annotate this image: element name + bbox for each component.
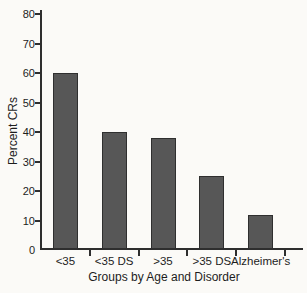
x-tick-5: [284, 250, 286, 256]
y-tick-20: [35, 190, 41, 192]
x-axis-line: [40, 248, 303, 250]
y-axis-title: Percent CRs: [6, 97, 20, 165]
x-category-label-3: >35: [153, 255, 173, 268]
y-tick-label-0: 0: [8, 244, 35, 256]
y-tick-70: [35, 43, 41, 45]
y-tick-50: [35, 102, 41, 104]
y-tick-80: [35, 13, 41, 15]
y-axis-line: [40, 10, 42, 250]
bar-4: [199, 176, 224, 250]
bar-3: [151, 138, 176, 250]
x-tick-2: [138, 250, 140, 256]
x-category-label-4: >35 DS: [192, 255, 231, 268]
y-tick-label-20: 20: [8, 185, 35, 197]
x-axis-title: Groups by Age and Disorder: [88, 270, 239, 284]
x-category-label-5: Alzheimer's: [231, 255, 290, 268]
y-tick-30: [35, 161, 41, 163]
x-tick-4: [235, 250, 237, 256]
bar-5: [248, 215, 273, 250]
x-category-label-2: <35 DS: [95, 255, 134, 268]
y-tick-60: [35, 72, 41, 74]
x-category-label-1: <35: [56, 255, 76, 268]
y-tick-40: [35, 131, 41, 133]
y-tick-label-80: 80: [8, 8, 35, 20]
bar-2: [102, 132, 127, 250]
y-tick-10: [35, 220, 41, 222]
x-tick-3: [186, 250, 188, 256]
y-tick-label-60: 60: [8, 67, 35, 79]
y-tick-label-10: 10: [8, 215, 35, 227]
y-tick-label-70: 70: [8, 38, 35, 50]
bar-chart: 01020304050607080 <35<35 DS>35>35 DSAlzh…: [0, 0, 307, 293]
bar-1: [53, 73, 78, 250]
x-tick-1: [89, 250, 91, 256]
